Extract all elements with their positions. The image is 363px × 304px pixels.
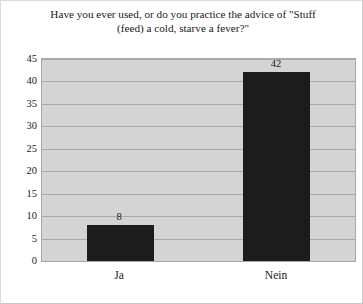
y-axis: 051015202530354045 — [1, 58, 37, 262]
y-axis-tick-label: 30 — [3, 120, 37, 131]
y-axis-tick-label: 10 — [3, 210, 37, 221]
y-axis-tick-label: 20 — [3, 165, 37, 176]
y-axis-tick-label: 0 — [3, 255, 37, 266]
y-axis-tick-label: 25 — [3, 143, 37, 154]
bar-value-label-nein: 42 — [271, 58, 282, 70]
x-axis-tick-label-nein: Nein — [265, 269, 287, 281]
chart-title: Have you ever used, or do you practice t… — [23, 7, 343, 35]
y-axis-tick-label: 5 — [3, 233, 37, 244]
x-axis: JaNein — [41, 269, 356, 285]
bar-value-label-ja: 8 — [116, 211, 121, 223]
x-axis-tick-label-ja: Ja — [114, 269, 124, 281]
y-axis-tick-label: 40 — [3, 75, 37, 86]
bar-value-labels: 842 — [41, 58, 356, 262]
y-axis-tick-label: 35 — [3, 98, 37, 109]
chart-figure: Have you ever used, or do you practice t… — [0, 0, 363, 304]
y-axis-tick-label: 15 — [3, 188, 37, 199]
y-axis-tick-label: 45 — [3, 53, 37, 64]
